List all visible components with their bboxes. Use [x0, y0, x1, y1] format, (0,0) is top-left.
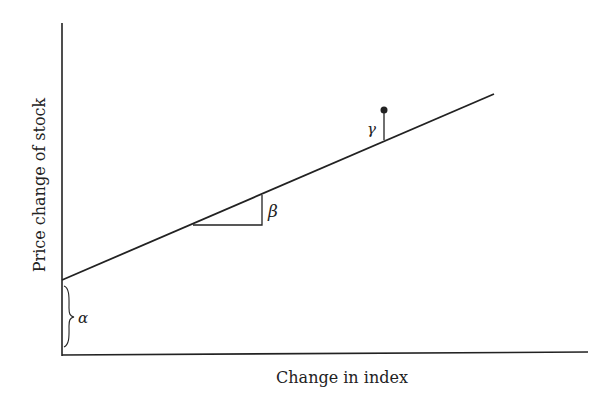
gamma-label: γ: [367, 120, 376, 138]
x-axis: [62, 352, 588, 355]
alpha-label: α: [78, 309, 88, 327]
intercept-brace: [64, 286, 74, 347]
beta-label: β: [267, 201, 278, 221]
x-axis-label: Change in index: [276, 368, 408, 387]
observation-point: [381, 107, 388, 114]
regression-line: [62, 94, 494, 280]
regression-diagram: β γ α Change in index Price change of st…: [0, 0, 615, 409]
slope-triangle: [193, 195, 262, 225]
y-axis-label: Price change of stock: [30, 97, 49, 272]
